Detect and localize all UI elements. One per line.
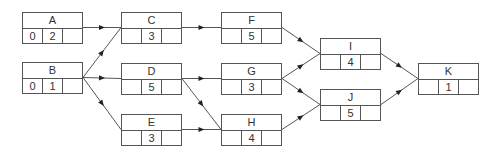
node-e-cell-3 xyxy=(162,131,181,146)
node-f-cell-3 xyxy=(262,29,281,44)
node-b: B 0 1 xyxy=(22,62,83,94)
node-d-cell-1 xyxy=(122,80,142,95)
node-d-label: D xyxy=(122,64,181,80)
node-b-cell-2: 1 xyxy=(43,79,63,94)
node-i-cell-3 xyxy=(361,55,380,70)
node-g-cell-2: 3 xyxy=(242,80,262,95)
node-h-cell-2: 4 xyxy=(242,131,262,146)
node-d-cell-2: 5 xyxy=(142,80,162,95)
node-e-cell-2: 3 xyxy=(142,131,162,146)
arrowhead-icon xyxy=(297,115,303,120)
node-i: I 4 xyxy=(320,38,381,70)
arrowhead-icon xyxy=(199,76,205,81)
node-a-cell-1: 0 xyxy=(23,29,43,44)
node-f-cell-2: 5 xyxy=(242,29,262,44)
arrowhead-icon xyxy=(98,50,104,56)
node-b-label: B xyxy=(23,63,82,79)
node-a-cell-2: 2 xyxy=(43,29,63,44)
node-a-cell-3 xyxy=(63,29,82,44)
arrowhead-icon xyxy=(297,64,303,69)
node-e-label: E xyxy=(122,115,181,131)
node-a-label: A xyxy=(23,13,82,29)
arrowhead-icon xyxy=(99,25,105,30)
arrowhead-icon xyxy=(199,127,205,132)
node-h-cell-1 xyxy=(222,131,242,146)
arrowhead-icon xyxy=(98,100,104,106)
node-j-cell-1 xyxy=(321,106,341,121)
node-g-cell-3 xyxy=(262,80,281,95)
node-g-label: G xyxy=(222,64,281,80)
arrowhead-icon xyxy=(198,100,204,106)
node-k-cell-3 xyxy=(459,80,478,95)
arrowhead-icon xyxy=(99,75,105,80)
arrowhead-icon xyxy=(396,90,402,96)
node-h-cell-3 xyxy=(262,131,281,146)
node-c-label: C xyxy=(122,13,181,29)
network-diagram: A 0 2 B 0 1 C 3 D 5 E xyxy=(0,0,485,156)
node-g: G 3 xyxy=(221,63,282,95)
node-j-cell-3 xyxy=(361,106,380,121)
node-k-cell-2: 1 xyxy=(439,80,459,95)
arrowhead-icon xyxy=(199,25,205,30)
node-a: A 0 2 xyxy=(22,12,83,44)
node-b-cell-1: 0 xyxy=(23,79,43,94)
node-e: E 3 xyxy=(121,114,182,146)
node-j-cell-2: 5 xyxy=(341,106,361,121)
node-c: C 3 xyxy=(121,12,182,44)
node-j: J 5 xyxy=(320,89,381,121)
node-e-cell-1 xyxy=(122,131,142,146)
node-i-cell-2: 4 xyxy=(341,55,361,70)
node-k-cell-1 xyxy=(419,80,439,95)
arrowhead-icon xyxy=(396,62,402,68)
node-i-label: I xyxy=(321,39,380,55)
node-i-cell-1 xyxy=(321,55,341,70)
node-g-cell-1 xyxy=(222,80,242,95)
arrowhead-icon xyxy=(297,37,303,43)
node-h: H 4 xyxy=(221,114,282,146)
node-c-cell-1 xyxy=(122,29,142,44)
arrowhead-icon xyxy=(297,88,303,94)
node-k: K 1 xyxy=(418,63,479,95)
node-f-label: F xyxy=(222,13,281,29)
node-j-label: J xyxy=(321,90,380,106)
node-c-cell-2: 3 xyxy=(142,29,162,44)
node-h-label: H xyxy=(222,115,281,131)
node-b-cell-3 xyxy=(63,79,82,94)
node-d-cell-3 xyxy=(162,80,181,95)
node-f: F 5 xyxy=(221,12,282,44)
node-k-label: K xyxy=(419,64,478,80)
node-d: D 5 xyxy=(121,63,182,95)
node-c-cell-3 xyxy=(162,29,181,44)
node-f-cell-1 xyxy=(222,29,242,44)
